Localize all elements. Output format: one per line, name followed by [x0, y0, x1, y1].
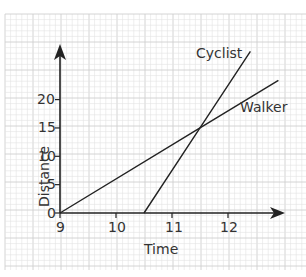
grid	[5, 14, 306, 270]
cyclist-label: Cyclist	[196, 46, 242, 60]
x-tick-11: 11	[165, 220, 183, 234]
y-tick-0: 0	[47, 206, 56, 220]
y-tick-10: 10	[38, 149, 56, 163]
x-tick-10: 10	[108, 220, 126, 234]
x-tick-9: 9	[56, 220, 65, 234]
walker-label: Walker	[240, 100, 287, 114]
x-tick-12: 12	[220, 220, 238, 234]
y-axis-label-wrap: Distance	[14, 170, 74, 184]
y-tick-20: 20	[37, 92, 55, 106]
distance-time-graph	[0, 0, 306, 277]
y-tick-5: 5	[47, 177, 56, 191]
y-tick-15: 15	[38, 120, 56, 134]
x-axis-label: Time	[144, 242, 178, 256]
